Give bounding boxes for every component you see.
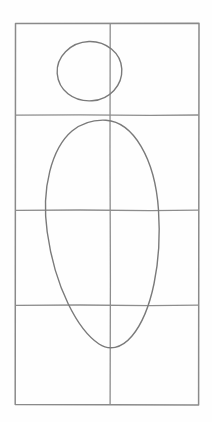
horizontal-line-1 (16, 115, 199, 116)
sketch-canvas-root (0, 0, 212, 422)
sketch-drawing (0, 0, 212, 422)
horizontal-line-3 (16, 305, 199, 306)
horizontal-line-2 (16, 210, 199, 211)
